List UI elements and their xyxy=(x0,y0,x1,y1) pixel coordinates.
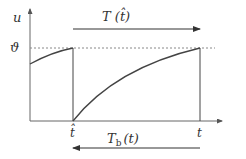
bottom-arrow-label: Tb(t) xyxy=(107,131,139,148)
curve-after-reset xyxy=(73,48,200,121)
threshold-label: ϑ xyxy=(10,40,19,55)
curve-before-reset xyxy=(30,48,73,64)
x-tick-t: t xyxy=(197,126,202,140)
diagram-canvas: u ϑ T (t̂) t̂ t Tb(t) xyxy=(0,0,246,159)
y-axis-label: u xyxy=(13,10,21,25)
top-arrow-label: T (t̂) xyxy=(102,7,130,24)
x-tick-t-hat: t̂ xyxy=(70,123,76,140)
